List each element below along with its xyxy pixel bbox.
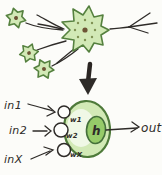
weight-label-w2: w2 [66,132,78,140]
input-arrow-3 [31,147,53,159]
soma [62,6,109,52]
nucleus-dot [82,27,87,32]
weight-label-w1: w1 [70,116,82,124]
presynaptic-cell-2 [18,43,40,63]
weight-label-wX: wX [70,151,83,159]
input-label-in1: in1 [4,99,22,112]
down-arrow-icon [79,64,97,95]
presynaptic-cell-3 [33,59,55,78]
neuron-diagram: in1 in2 inX h w [0,0,162,175]
weight-node-1 [58,106,70,118]
input-arrow-2 [33,126,51,136]
output-label: out [141,121,162,135]
input-label-inX: inX [4,153,23,166]
activation-label: h [92,124,101,138]
weight-node-3 [58,144,71,157]
axon-branches [110,13,157,33]
input-arrow-1 [28,104,55,116]
artificial-neuron-model: in1 in2 inX h w [0,95,162,175]
presynaptic-cell-1 [4,7,28,29]
input-label-in2: in2 [9,124,27,137]
biological-neuron-sketch [0,0,162,95]
